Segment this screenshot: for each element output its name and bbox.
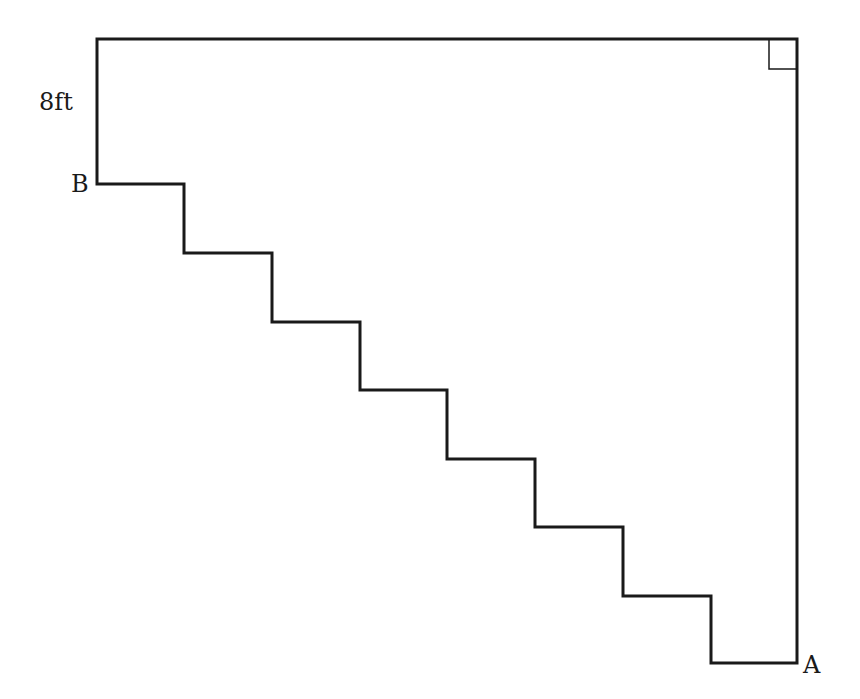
height-label: 8ft xyxy=(39,88,73,116)
point-b-label: B xyxy=(71,170,89,198)
point-a-label: A xyxy=(802,651,821,679)
right-angle-marker xyxy=(769,39,797,69)
staircase-diagram: 8ft B A xyxy=(0,0,860,699)
staircase-outline xyxy=(97,39,797,663)
